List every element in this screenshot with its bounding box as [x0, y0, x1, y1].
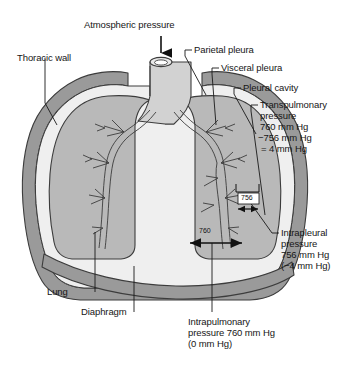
intrapulmonary-line-2: pressure 760 mm Hg	[188, 327, 275, 338]
transpulmonary-line-3: 760 mm Hg	[260, 121, 308, 132]
label-visceral-pleura: Visceral pleura	[221, 62, 282, 73]
transpulmonary-line-5: = 4 mm Hg	[261, 143, 307, 154]
intrapleural-line-3: 756 mm Hg	[281, 249, 329, 260]
label-pleural-cavity: Pleural cavity	[243, 82, 298, 93]
intrapleural-line-2: pressure	[281, 238, 317, 249]
intrapulmonary-line-3: (0 mm Hg)	[188, 338, 232, 349]
measurement-756-label: 756	[241, 194, 253, 202]
transpulmonary-line-4: −756 mm Hg	[258, 132, 312, 143]
label-lung: Lung	[47, 286, 68, 297]
lung-pressure-diagram: Atmospheric pressure Parietal pleura Vis…	[0, 0, 355, 366]
intrapleural-line-1: Intrapleural	[281, 227, 327, 238]
intrapleural-line-4: (−4 mm Hg)	[281, 260, 330, 271]
intrapulmonary-line-1: Intrapulmonary	[188, 316, 250, 327]
label-thoracic-wall: Thoracic wall	[17, 52, 71, 63]
label-diaphragm: Diaphragm	[81, 306, 127, 317]
transpulmonary-line-2: pressure	[260, 110, 296, 121]
label-atmospheric-pressure: Atmospheric pressure	[84, 19, 174, 30]
transpulmonary-line-1: Transpulmonary	[260, 99, 327, 110]
measurement-760-label: 760	[199, 227, 211, 235]
label-parietal-pleura: Parietal pleura	[194, 44, 254, 55]
